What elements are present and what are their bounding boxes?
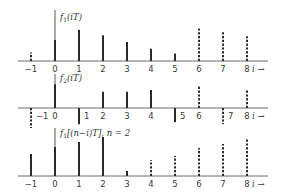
tick-label-4: 4 (148, 111, 153, 121)
tick-label-0: 0 (52, 111, 57, 121)
tick-label-1: 1 (76, 179, 81, 189)
axis-variable-label: i → (252, 179, 265, 189)
function-label: f2(iT) (59, 73, 82, 84)
stem-plot-diagram: −1012345678i →f1(iT)−1012345678i →f2(iT)… (0, 0, 295, 196)
tick-label-3: 3 (124, 179, 129, 189)
arrow-right-icon: → (257, 111, 264, 121)
tick-label-7: 7 (220, 64, 225, 74)
tick-label-7: 7 (220, 179, 225, 189)
tick-label-2: 2 (100, 179, 105, 189)
tick-label-5: 5 (180, 111, 185, 121)
tick-label-8: 8 (244, 111, 249, 121)
function-label: f1(iT) (59, 12, 82, 23)
panel-f1-shifted: −1012345678i →f1[(n−i)T], n = 2 (18, 128, 268, 189)
tick-label--1: −1 (25, 179, 38, 189)
axis-variable-label: i → (252, 111, 265, 121)
tick-label-4: 4 (148, 179, 153, 189)
panel-f1: −1012345678i →f1(iT) (18, 10, 268, 74)
tick-label--1: −1 (36, 111, 49, 121)
arrow-right-icon: → (257, 64, 264, 74)
tick-label-4: 4 (148, 64, 153, 74)
tick-label-7: 7 (228, 111, 233, 121)
tick-label-3: 3 (124, 111, 129, 121)
tick-label-5: 5 (172, 64, 177, 74)
tick-label--1: −1 (25, 64, 38, 74)
tick-label-6: 6 (196, 111, 201, 121)
tick-label-8: 8 (244, 179, 249, 189)
tick-label-8: 8 (244, 64, 249, 74)
tick-label-0: 0 (52, 64, 57, 74)
function-label: f1[(n−i)T], n = 2 (59, 128, 130, 139)
tick-label-3: 3 (124, 64, 129, 74)
tick-label-2: 2 (100, 111, 105, 121)
tick-label-0: 0 (52, 179, 57, 189)
tick-label-5: 5 (172, 179, 177, 189)
tick-label-1: 1 (84, 111, 89, 121)
panel-f2: −1012345678i →f2(iT) (18, 73, 268, 128)
tick-label-6: 6 (196, 179, 201, 189)
tick-label-2: 2 (100, 64, 105, 74)
tick-label-6: 6 (196, 64, 201, 74)
axis-variable-label: i → (252, 64, 265, 74)
arrow-right-icon: → (257, 179, 264, 189)
